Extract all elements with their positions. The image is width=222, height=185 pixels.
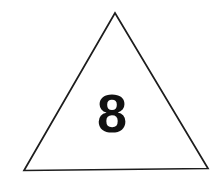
figure-canvas: 8 — [0, 0, 222, 185]
number-eight-label: 8 — [97, 83, 127, 143]
triangle-diagram: 8 — [0, 0, 222, 185]
